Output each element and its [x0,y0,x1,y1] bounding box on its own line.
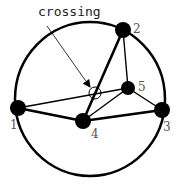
edge-2-5 [123,30,128,88]
node-3 [154,102,170,118]
outer-circle [15,22,165,176]
graph-diagram: 12345 crossing [0,0,183,188]
crossing-arrow [47,26,90,87]
node-4 [75,113,91,129]
node-label-2: 2 [133,22,141,36]
node-label-5: 5 [138,80,146,94]
node-label-4: 4 [91,127,99,141]
edge-1-5 [18,88,128,108]
node-label-3: 3 [163,120,171,134]
graph-canvas: 12345 crossing [0,0,183,188]
node-label-1: 1 [10,118,18,132]
crossing-label: crossing [38,4,101,19]
edge-4-2 [83,30,123,121]
nodes-group: 12345 [10,22,171,141]
node-5 [121,81,135,95]
node-1 [10,100,26,116]
node-2 [115,22,131,38]
edge-1-4 [18,108,83,121]
